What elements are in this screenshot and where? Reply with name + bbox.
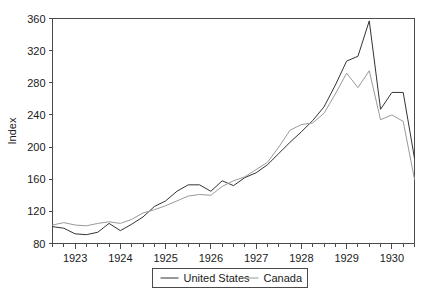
y-tick-label: 320 [27,45,45,57]
x-tick-label: 1930 [380,252,404,264]
x-tick-label: 1927 [244,252,268,264]
series-line-canada [53,71,415,226]
x-tick-label: 1925 [153,252,177,264]
y-axis-title: Index [6,117,18,144]
x-axis-label-group: 19231924192519261927192819291930 [63,252,404,264]
y-tick-label: 280 [27,77,45,89]
legend-label-united-states: United States [184,272,251,284]
series-group [53,21,415,235]
y-tick-label: 120 [27,205,45,217]
y-tick-label: 80 [33,238,45,250]
x-tick-label: 1928 [289,252,313,264]
chart-container: 80120160200240280320360 1923192419251926… [0,0,427,302]
chart-legend: United StatesCanada [153,269,308,288]
y-tick-label: 240 [27,109,45,121]
y-tick-label: 160 [27,173,45,185]
x-tick-label: 1923 [63,252,87,264]
plot-frame [53,19,415,244]
series-line-united-states [53,21,415,235]
x-tick-label: 1924 [108,252,132,264]
line-chart: 80120160200240280320360 1923192419251926… [0,0,427,302]
y-axis-tick-group [49,19,53,244]
x-tick-label: 1926 [199,252,223,264]
x-tick-label: 1929 [334,252,358,264]
legend-label-canada: Canada [264,272,303,284]
x-axis-tick-group [53,244,415,249]
y-tick-label: 200 [27,141,45,153]
y-tick-label: 360 [27,13,45,25]
y-axis-label-group: 80120160200240280320360 [27,13,45,250]
